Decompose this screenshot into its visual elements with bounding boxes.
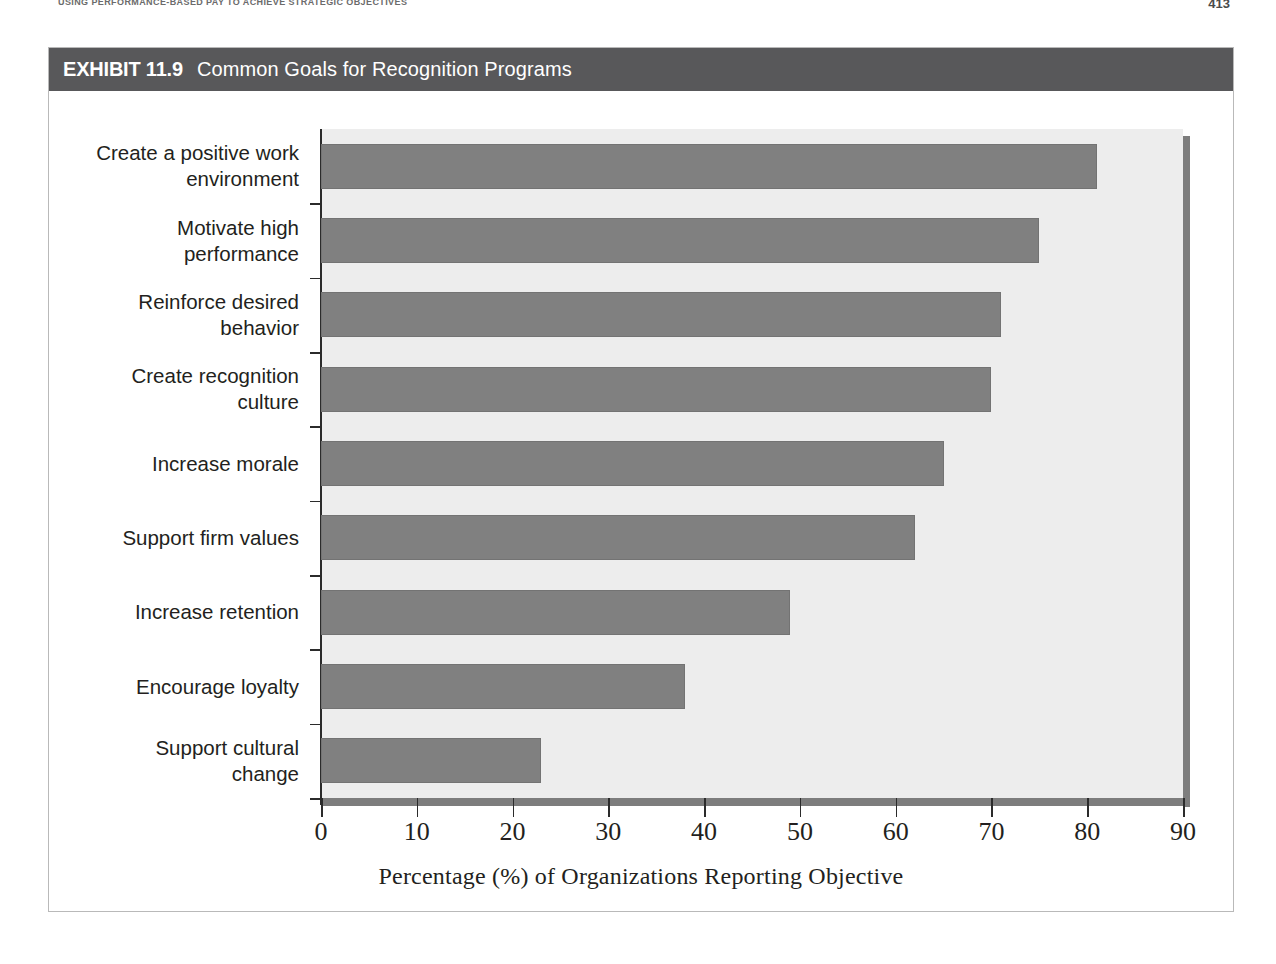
y-axis-label: Motivate highperformance (49, 215, 307, 267)
y-axis-label-line: performance (49, 241, 307, 267)
y-axis-label-line: Increase retention (49, 599, 307, 625)
x-tick-label: 10 (387, 817, 447, 847)
bar (321, 590, 790, 635)
bar (321, 738, 541, 783)
y-axis-label: Increase morale (49, 451, 307, 477)
chart: Create a positive workenvironmentMotivat… (49, 91, 1233, 912)
exhibit-label: EXHIBIT 11.9 (63, 58, 183, 81)
x-tick (1183, 798, 1185, 817)
exhibit-box: EXHIBIT 11.9 Common Goals for Recognitio… (48, 47, 1234, 912)
bar (321, 664, 685, 709)
x-tick (896, 798, 898, 817)
x-tick-label: 90 (1153, 817, 1213, 847)
x-tick (321, 798, 323, 817)
x-tick (513, 798, 515, 817)
x-tick (1087, 798, 1089, 817)
exhibit-title-bar: EXHIBIT 11.9 Common Goals for Recognitio… (49, 48, 1233, 91)
y-tick (310, 278, 321, 280)
x-tick (608, 798, 610, 817)
exhibit-title: Common Goals for Recognition Programs (197, 58, 572, 81)
y-axis-label-line: Reinforce desired (49, 289, 307, 315)
y-axis-label-line: Support cultural (49, 735, 307, 761)
x-tick (991, 798, 993, 817)
y-axis-label: Encourage loyalty (49, 674, 307, 700)
x-tick-label: 30 (578, 817, 638, 847)
x-tick (800, 798, 802, 817)
x-tick-label: 60 (866, 817, 926, 847)
y-axis-label-line: Support firm values (49, 525, 307, 551)
right-axis-line (1183, 136, 1190, 807)
x-tick-label: 80 (1057, 817, 1117, 847)
y-tick (310, 203, 321, 205)
y-tick (310, 724, 321, 726)
y-tick (310, 575, 321, 577)
x-tick-label: 70 (961, 817, 1021, 847)
x-tick (704, 798, 706, 817)
y-axis-label-line: Create recognition (49, 363, 307, 389)
y-tick (310, 352, 321, 354)
bar (321, 515, 915, 560)
bar (321, 292, 1001, 337)
y-tick (310, 501, 321, 503)
y-tick (310, 649, 321, 651)
y-axis-label: Support firm values (49, 525, 307, 551)
bar (321, 441, 944, 486)
y-axis-label-line: behavior (49, 315, 307, 341)
x-axis-line (321, 798, 1190, 806)
bar (321, 144, 1097, 189)
y-axis-label-line: environment (49, 166, 307, 192)
y-axis-label: Support culturalchange (49, 735, 307, 787)
y-axis-label: Create a positive workenvironment (49, 140, 307, 192)
running-head: USING PERFORMANCE-BASED PAY TO ACHIEVE S… (58, 0, 407, 7)
x-tick-label: 50 (770, 817, 830, 847)
y-axis-label: Create recognitionculture (49, 363, 307, 415)
y-tick (310, 426, 321, 428)
bar (321, 367, 991, 412)
y-axis-label-line: culture (49, 389, 307, 415)
page-number: 413 (1208, 0, 1230, 11)
x-tick-label: 40 (674, 817, 734, 847)
x-tick (417, 798, 419, 817)
x-tick-label: 0 (291, 817, 351, 847)
y-axis-label-line: Increase morale (49, 451, 307, 477)
x-tick-label: 20 (483, 817, 543, 847)
x-axis-title: Percentage (%) of Organizations Reportin… (49, 863, 1233, 890)
y-axis-label: Reinforce desiredbehavior (49, 289, 307, 341)
y-axis-label-line: change (49, 761, 307, 787)
y-axis-label-line: Motivate high (49, 215, 307, 241)
y-axis-label-line: Encourage loyalty (49, 674, 307, 700)
y-axis-label-line: Create a positive work (49, 140, 307, 166)
y-axis-label: Increase retention (49, 599, 307, 625)
bar (321, 218, 1039, 263)
y-tick (310, 798, 321, 800)
